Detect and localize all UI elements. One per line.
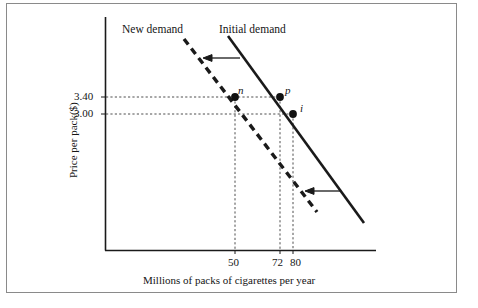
x-axis-title: Millions of packs of cigarettes per year: [143, 275, 315, 286]
initial-demand-label: Initial demand: [219, 24, 286, 36]
y-axis-title: Price per pack($): [68, 102, 79, 178]
figure-page: New demand Initial demand n p i 3.40 3.0…: [0, 0, 478, 308]
shift-arrow-upper: [203, 55, 240, 62]
y-tick-label-340: 3.40: [74, 91, 93, 102]
initial-demand-curve: [228, 36, 364, 223]
x-tick-label-72: 72: [272, 257, 283, 268]
new-demand-label: New demand: [122, 24, 183, 36]
point-label-n: n: [238, 85, 244, 96]
x-tick-label-50: 50: [228, 257, 239, 268]
guide-lines: [106, 97, 293, 250]
point-label-i: i: [300, 103, 303, 114]
shift-arrows: [203, 55, 341, 195]
point-p: [276, 93, 284, 101]
point-label-p: p: [285, 85, 291, 96]
shift-arrow-lower: [305, 188, 341, 195]
x-tick-label-80: 80: [290, 257, 301, 268]
point-i: [289, 110, 297, 118]
